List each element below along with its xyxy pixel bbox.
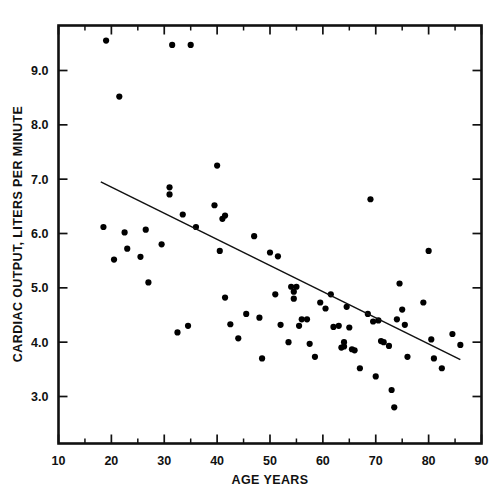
data-point [357,365,363,371]
y-tick-label: 8.0 [31,118,48,132]
data-point [394,316,400,322]
data-point [214,162,220,168]
x-axis-tick-labels: 102030405060708090 [52,454,489,468]
data-point [370,318,376,324]
data-point [211,202,217,208]
data-point [322,305,328,311]
y-tick-label: 4.0 [31,336,48,350]
data-point [100,224,106,230]
cardiac-output-vs-age-chart: 102030405060708090 3.04.05.06.07.08.09.0… [0,0,499,498]
data-point [457,342,463,348]
data-point [159,241,165,247]
y-tick-label: 5.0 [31,281,48,295]
data-point [439,365,445,371]
data-point [259,355,265,361]
data-point [272,291,278,297]
data-point [352,347,358,353]
data-point [285,339,291,345]
data-point [293,284,299,290]
x-tick-label: 10 [52,454,66,468]
y-tick-label: 9.0 [31,64,48,78]
chart-background [0,0,499,498]
x-tick-label: 60 [316,454,330,468]
y-axis-title: CARDIAC OUTPUT, LITERS PER MINUTE [11,106,25,362]
x-tick-label: 80 [422,454,436,468]
data-point [404,354,410,360]
y-tick-label: 6.0 [31,227,48,241]
data-point [251,233,257,239]
data-point [267,249,273,255]
data-point [256,315,262,321]
x-tick-label: 90 [475,454,489,468]
x-tick-label: 30 [157,454,171,468]
data-point [399,306,405,312]
data-point [222,212,228,218]
data-point [277,322,283,328]
x-axis-title: AGE YEARS [231,473,308,487]
data-point [169,42,175,48]
data-point [174,329,180,335]
data-point [396,280,402,286]
data-point [336,323,342,329]
data-point [121,229,127,235]
y-tick-label: 3.0 [31,390,48,404]
data-point [185,323,191,329]
x-tick-label: 70 [369,454,383,468]
data-point [402,322,408,328]
data-point [389,387,395,393]
data-point [227,321,233,327]
data-point [330,324,336,330]
data-point [188,42,194,48]
data-point [304,316,310,322]
data-point [275,253,281,259]
data-point [373,373,379,379]
data-point [180,211,186,217]
data-point [137,254,143,260]
data-point [145,279,151,285]
data-point [317,299,323,305]
data-point [291,296,297,302]
data-point [243,311,249,317]
data-point [124,246,130,252]
data-point [143,227,149,233]
data-point [103,38,109,44]
data-point [391,404,397,410]
data-point [222,295,228,301]
data-point [346,324,352,330]
data-point [341,343,347,349]
data-point [449,331,455,337]
data-point [431,355,437,361]
scatter-plot-figure: 102030405060708090 3.04.05.06.07.08.09.0… [0,0,499,498]
data-point [426,248,432,254]
data-point [299,316,305,322]
data-point [386,343,392,349]
data-point [111,256,117,262]
data-point [307,341,313,347]
x-tick-label: 20 [104,454,118,468]
data-point [420,299,426,305]
data-point [166,184,172,190]
data-point [217,248,223,254]
data-point [235,335,241,341]
data-point [381,339,387,345]
x-tick-label: 50 [263,454,277,468]
data-point [296,323,302,329]
data-point [312,354,318,360]
data-point [367,196,373,202]
data-point [428,336,434,342]
data-point [116,93,122,99]
x-tick-label: 40 [210,454,224,468]
y-tick-label: 7.0 [31,173,48,187]
data-point [166,191,172,197]
